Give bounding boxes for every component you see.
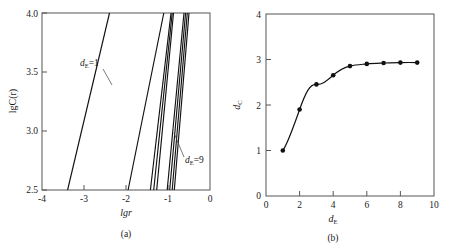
panel-a-x-tick-labels: -4 -3 -2 -1 0: [38, 194, 213, 204]
y-tick-label: 4.0: [26, 9, 38, 19]
panel-a-x-axis-label: lgr: [120, 207, 132, 218]
data-line-de7: [170, 13, 186, 190]
data-line-de2: [128, 13, 164, 190]
panel-a-caption: (a): [121, 229, 132, 240]
data-point: [348, 64, 353, 69]
annotation-de1-label: dE=1: [80, 58, 99, 69]
data-point: [398, 60, 403, 65]
panel-a-x-ticks: [84, 185, 168, 190]
y-tick-label: 3.5: [26, 67, 38, 77]
data-point: [314, 82, 319, 87]
panel-b-x-tick-labels: 0 2 4 6 8 10: [264, 200, 439, 210]
x-tick-label: 2: [297, 200, 302, 210]
data-point: [281, 148, 286, 153]
panel-a-y-tick-labels: 2.5 3.0 3.5 4.0: [26, 9, 38, 195]
y-tick-label: 4: [256, 10, 261, 20]
panel-b-frame: [266, 14, 434, 196]
data-point: [331, 73, 336, 78]
data-line-de5: [157, 13, 174, 190]
panel-b-x-ticks: [300, 191, 401, 196]
panel-a-svg: 2.5 3.0 3.5 4.0 -4 -3 -2 -1 0 lgr lgC(r): [0, 0, 225, 252]
x-tick-label: 0: [264, 200, 269, 210]
figure-container: 2.5 3.0 3.5 4.0 -4 -3 -2 -1 0 lgr lgC(r): [0, 0, 450, 252]
panel-a-data-lines: [68, 13, 189, 190]
data-point: [381, 61, 386, 66]
annotation-de9-label: dE=9: [185, 155, 204, 166]
data-point: [415, 60, 420, 65]
panel-b-data-points: [281, 60, 420, 153]
panel-b-x-axis-label: dE: [329, 213, 338, 225]
x-tick-label: 10: [429, 200, 439, 210]
x-tick-label: 6: [364, 200, 369, 210]
panel-b-caption: (b): [327, 233, 338, 244]
x-tick-label: 8: [398, 200, 403, 210]
panel-b-svg: 0 1 2 3 4 0 2 4 6 8 10 dE: [225, 0, 450, 252]
x-tick-label: -2: [122, 194, 130, 204]
data-line-de3: [150, 13, 171, 190]
panel-b-y-ticks: [266, 60, 271, 151]
panel-b-curve: [283, 63, 417, 151]
panel-a-y-axis-label: lgC(r): [7, 89, 19, 113]
data-point: [297, 107, 302, 112]
panel-b-y-axis-label: dC: [231, 100, 243, 109]
y-tick-label: 0: [256, 191, 261, 201]
data-line-de1: [68, 13, 110, 190]
y-tick-label: 3: [256, 55, 261, 65]
y-tick-label: 2.5: [26, 185, 38, 195]
x-tick-label: 0: [208, 194, 213, 204]
panel-a: 2.5 3.0 3.5 4.0 -4 -3 -2 -1 0 lgr lgC(r): [0, 0, 225, 252]
y-tick-label: 2: [256, 101, 261, 111]
panel-a-y-ticks: [42, 13, 47, 190]
x-tick-label: -4: [38, 194, 46, 204]
data-point: [365, 62, 370, 67]
y-tick-label: 1: [256, 146, 261, 156]
x-tick-label: -3: [80, 194, 88, 204]
y-tick-label: 3.0: [26, 126, 38, 136]
panel-b-y-tick-labels: 0 1 2 3 4: [256, 10, 261, 201]
x-tick-label: -1: [164, 194, 172, 204]
panel-b: 0 1 2 3 4 0 2 4 6 8 10 dE: [225, 0, 450, 252]
x-tick-label: 4: [331, 200, 336, 210]
